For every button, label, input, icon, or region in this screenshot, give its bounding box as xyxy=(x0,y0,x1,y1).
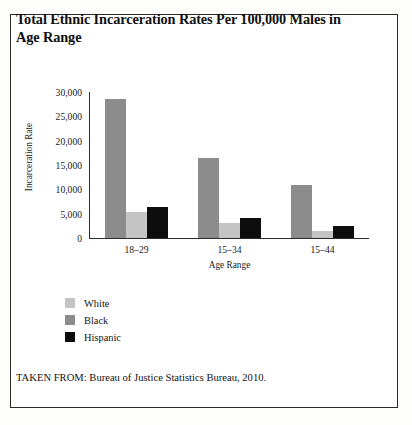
bar-group xyxy=(198,92,261,238)
bar-hispanic-15-34[interactable] xyxy=(240,218,261,238)
y-axis-tick-label: 30,000 xyxy=(56,87,82,98)
y-axis-tick-label: 10,000 xyxy=(56,184,82,195)
x-axis-title: Age Range xyxy=(90,260,369,270)
chart-page: Total Ethnic Incarceration Rates Per 100… xyxy=(0,0,412,425)
legend-swatch-icon xyxy=(65,332,75,342)
legend-item-hispanic[interactable]: Hispanic xyxy=(65,329,121,345)
bar-white-15-44[interactable] xyxy=(312,231,333,238)
legend-label: Black xyxy=(84,315,108,326)
legend-swatch-icon xyxy=(65,298,75,308)
bar-group xyxy=(291,92,354,238)
page-title: Total Ethnic Incarceration Rates Per 100… xyxy=(16,10,364,47)
chart-legend: WhiteBlackHispanic xyxy=(65,295,121,346)
y-axis-tick-label: 5,000 xyxy=(60,208,82,219)
bar-white-15-34[interactable] xyxy=(219,223,240,238)
bar-group xyxy=(105,92,168,238)
bar-series-container xyxy=(90,92,369,238)
bar-hispanic-18-29[interactable] xyxy=(147,207,168,238)
y-axis-tick-label: 0 xyxy=(77,233,82,244)
y-axis-title: Incarceration Rate xyxy=(24,102,34,212)
x-axis-tick-label: 15–44 xyxy=(311,244,335,255)
bar-black-15-44[interactable] xyxy=(291,185,312,238)
legend-item-white[interactable]: White xyxy=(65,295,121,311)
legend-swatch-icon xyxy=(65,315,75,325)
legend-item-black[interactable]: Black xyxy=(65,312,121,328)
x-axis-tick-label: 15–34 xyxy=(218,244,242,255)
legend-label: Hispanic xyxy=(84,332,121,343)
x-axis-tick-label: 18–29 xyxy=(125,244,149,255)
bar-hispanic-15-44[interactable] xyxy=(333,226,354,238)
y-axis-tick-label: 15,000 xyxy=(56,160,82,171)
bar-white-18-29[interactable] xyxy=(126,212,147,238)
bar-black-18-29[interactable] xyxy=(105,99,126,238)
legend-label: White xyxy=(84,298,109,309)
y-axis-tick-labels: 30,00025,00020,00015,00010,0005,0000 xyxy=(38,64,86,239)
source-note: TAKEN FROM: Bureau of Justice Statistics… xyxy=(16,372,266,383)
y-axis-tick-label: 20,000 xyxy=(56,135,82,146)
plot-area: Incarceration Rate 30,00025,00020,00015,… xyxy=(0,64,386,279)
x-axis-line xyxy=(89,238,369,239)
bar-black-15-34[interactable] xyxy=(198,158,219,238)
y-axis-tick-label: 25,000 xyxy=(56,111,82,122)
